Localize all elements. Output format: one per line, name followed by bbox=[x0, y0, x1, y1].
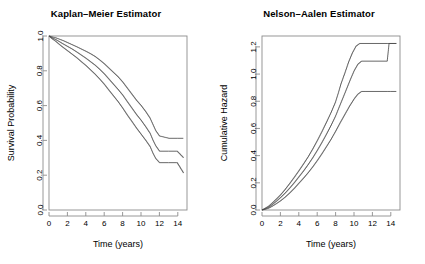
x-axis-tick-label: 10 bbox=[350, 219, 359, 228]
x-axis-tick-label: 6 bbox=[102, 219, 107, 228]
x-axis-tick-label: 0 bbox=[260, 219, 265, 228]
panel-nelson-aalen: Nelson–Aalen Estimator 024681012140.00.2… bbox=[213, 0, 425, 264]
y-axis-tick-label: 0.0 bbox=[36, 204, 45, 216]
x-axis-tick-label: 8 bbox=[120, 219, 125, 228]
y-axis-title: Cumulative Hazard bbox=[219, 85, 229, 162]
x-axis-title: Time (years) bbox=[93, 239, 143, 249]
x-axis-tick-label: 4 bbox=[297, 219, 302, 228]
x-axis-title: Time (years) bbox=[306, 239, 356, 249]
x-axis-tick-label: 12 bbox=[155, 219, 164, 228]
y-axis-tick-label: 0.2 bbox=[249, 177, 258, 189]
y-axis-title: Survival Probability bbox=[6, 84, 16, 161]
x-axis-tick-label: 10 bbox=[137, 219, 146, 228]
x-axis-tick-label: 8 bbox=[333, 219, 338, 228]
x-axis-tick-label: 0 bbox=[47, 219, 52, 228]
x-axis-tick-label: 14 bbox=[173, 219, 182, 228]
curve-km-2 bbox=[49, 36, 183, 173]
y-axis-tick-label: 0.2 bbox=[36, 169, 45, 181]
y-axis-tick-label: 0.8 bbox=[36, 65, 45, 77]
x-axis-tick-label: 2 bbox=[278, 219, 283, 228]
x-axis-tick-label: 12 bbox=[368, 219, 377, 228]
y-axis-tick-label: 0.8 bbox=[249, 95, 258, 107]
y-axis-tick-label: 1.0 bbox=[249, 68, 258, 80]
y-axis-tick-label: 0.6 bbox=[36, 99, 45, 111]
plot-area-kaplan-meier: 024681012140.00.20.40.60.81.0Time (years… bbox=[0, 0, 212, 264]
curve-km-1 bbox=[49, 36, 183, 158]
y-axis-tick-label: 0.6 bbox=[249, 122, 258, 134]
curve-na-1 bbox=[262, 43, 396, 210]
y-axis-tick-label: 1.2 bbox=[249, 41, 258, 53]
y-axis-tick-label: 0.4 bbox=[249, 150, 258, 162]
x-axis-tick-label: 6 bbox=[315, 219, 320, 228]
y-axis-tick-label: 0.4 bbox=[36, 134, 45, 146]
y-axis-tick-label: 0.0 bbox=[249, 204, 258, 216]
plot-frame bbox=[262, 36, 400, 210]
y-axis-tick-label: 1.0 bbox=[36, 30, 45, 42]
x-axis-tick-label: 4 bbox=[84, 219, 89, 228]
plot-area-nelson-aalen: 024681012140.00.20.40.60.81.01.2Time (ye… bbox=[213, 0, 425, 264]
panel-kaplan-meier: Kaplan–Meier Estimator 024681012140.00.2… bbox=[0, 0, 212, 264]
x-axis-tick-label: 2 bbox=[65, 219, 70, 228]
curve-na-0 bbox=[262, 43, 396, 210]
plot-frame bbox=[49, 36, 187, 210]
x-axis-tick-label: 14 bbox=[386, 219, 395, 228]
figure-root: Kaplan–Meier Estimator 024681012140.00.2… bbox=[0, 0, 425, 264]
